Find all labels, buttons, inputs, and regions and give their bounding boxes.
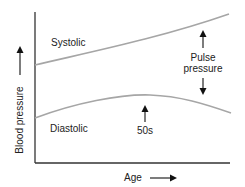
arrow-up-icon [142, 105, 149, 122]
arrow-up-icon [17, 46, 24, 75]
diastolic-label: Diastolic [50, 123, 88, 134]
peak-age-label: 50s [133, 125, 157, 136]
arrow-down-icon [200, 78, 207, 95]
blood-pressure-diagram: Systolic Diastolic Pulse pressure 50s Ag… [0, 0, 245, 187]
y-axis-label-wrap: Blood pressure [12, 80, 26, 160]
x-axis-label: Age [124, 172, 142, 183]
arrow-up-icon [200, 30, 207, 48]
diastolic-curve [35, 95, 231, 118]
systolic-label: Systolic [51, 37, 85, 48]
arrow-right-icon [150, 175, 177, 182]
y-axis-label: Blood pressure [14, 86, 25, 153]
pulse-pressure-label: Pulse pressure [183, 52, 223, 74]
pulse-pressure-line2: pressure [183, 63, 223, 74]
pulse-pressure-line1: Pulse [183, 52, 223, 63]
